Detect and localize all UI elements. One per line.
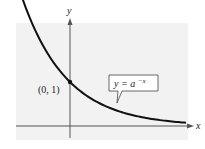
plot-background xyxy=(16,23,188,140)
x-axis-label: x xyxy=(195,120,201,131)
x-axis-arrow-icon xyxy=(187,124,194,129)
graph-canvas: y x (0, 1) y = a −x xyxy=(0,0,205,149)
y-axis-label: y xyxy=(66,5,72,16)
equation-exponent: −x xyxy=(138,77,147,85)
equation-base: y = a xyxy=(113,78,135,89)
y-axis-arrow-icon xyxy=(68,18,73,25)
point-0-1-marker xyxy=(68,80,72,84)
point-label: (0, 1) xyxy=(38,84,60,96)
exponential-decay-graph: y x (0, 1) y = a −x xyxy=(0,0,205,149)
